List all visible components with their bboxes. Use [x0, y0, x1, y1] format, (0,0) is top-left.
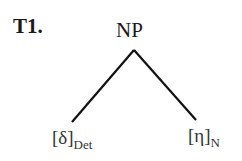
branch-right — [134, 50, 196, 120]
leaf-node-n: [η]N — [188, 125, 220, 147]
leaf-category-subscript: Det — [74, 137, 93, 152]
leaf-segment: [η] — [188, 125, 211, 146]
branch-left — [72, 50, 134, 122]
leaf-node-det: [δ]Det — [52, 127, 92, 149]
leaf-category-subscript: N — [211, 135, 220, 150]
leaf-segment: [δ] — [52, 127, 74, 148]
